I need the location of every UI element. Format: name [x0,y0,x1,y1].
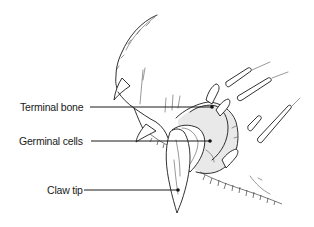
terminal-bone-dot [210,105,214,109]
germinal-cells-dot [208,139,212,143]
label-terminal-bone: Terminal bone [20,101,83,113]
label-germinal-cells: Germinal cells [19,135,83,147]
label-claw-tip: Claw tip [47,184,83,196]
paw-drawing [114,15,282,213]
claw-tip-dot [176,188,180,192]
